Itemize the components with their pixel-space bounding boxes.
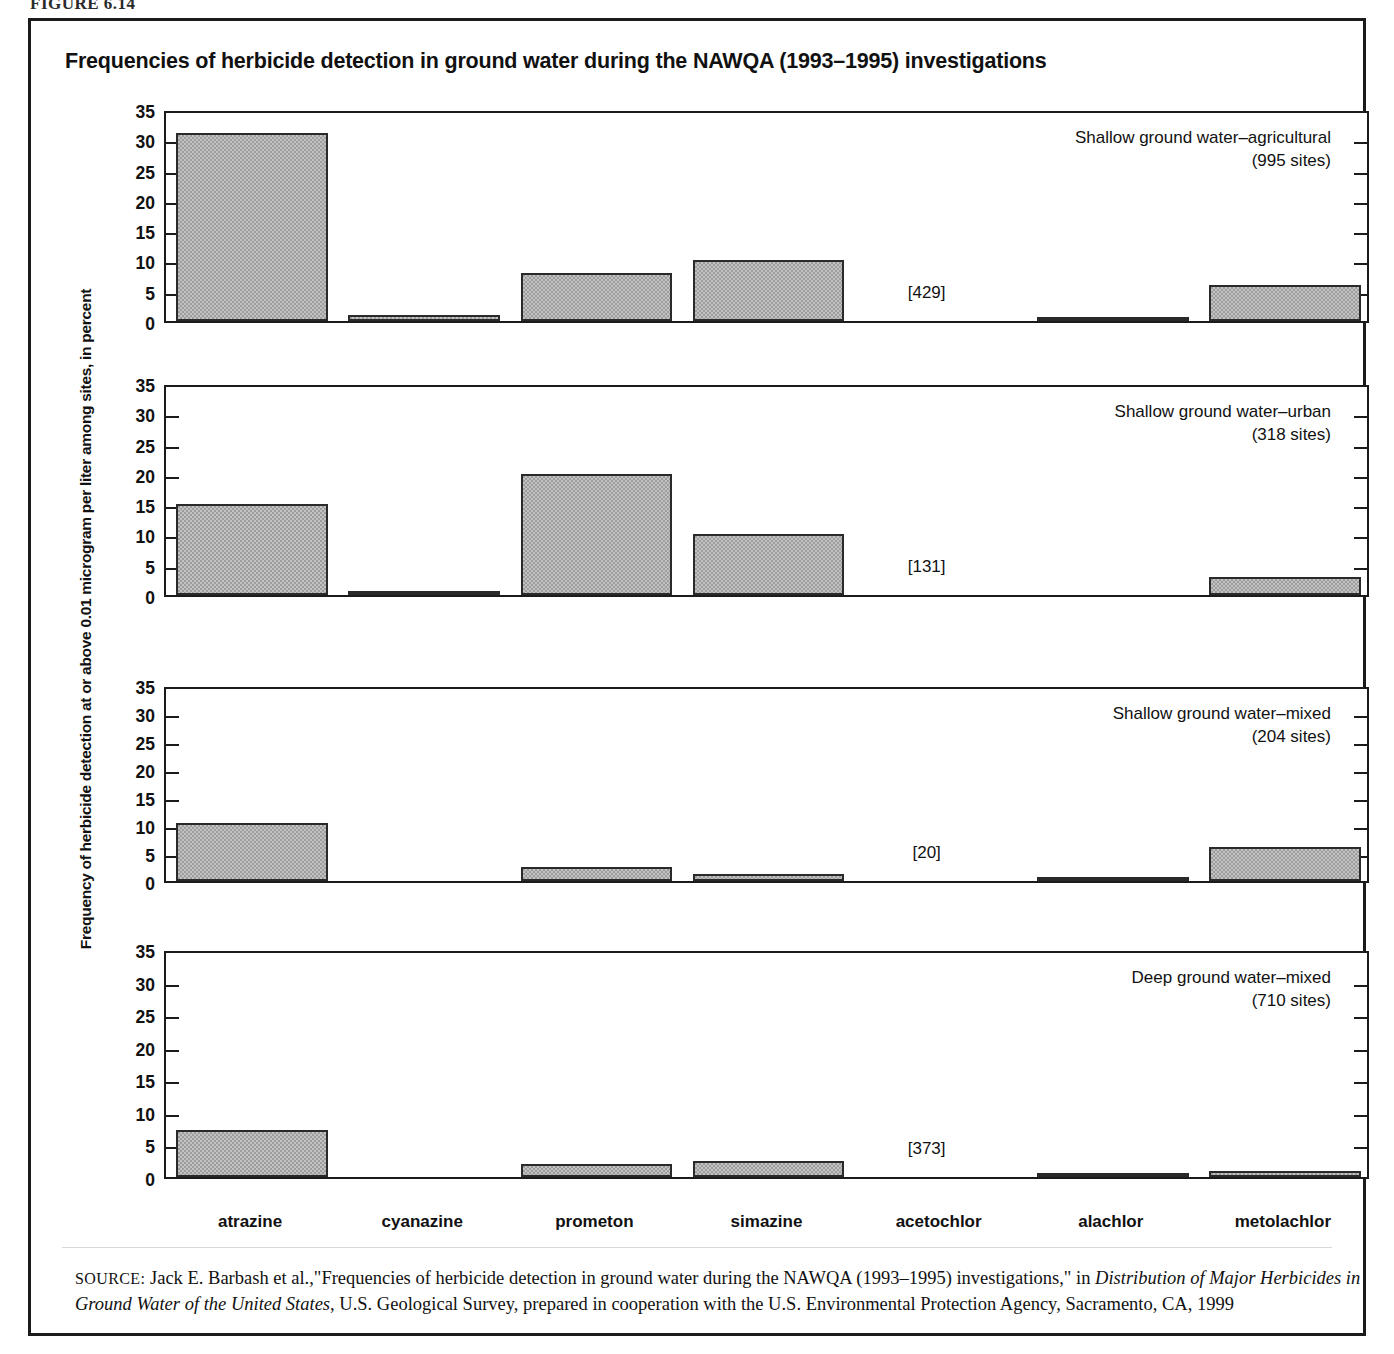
y-tick-mark-right-15 <box>1354 1082 1367 1084</box>
y-tick-label-30: 30 <box>136 977 155 995</box>
y-tick-mark-right-15 <box>1354 800 1367 802</box>
bar-prometon <box>521 273 672 321</box>
y-tick-mark-right-20 <box>1354 772 1367 774</box>
y-tick-label-25: 25 <box>136 1009 155 1027</box>
y-tick-mark-right-10 <box>1354 828 1367 830</box>
x-axis-label-acetochlor: acetochlor <box>896 1212 982 1232</box>
figure-frame: Frequencies of herbicide detection in gr… <box>28 18 1366 1336</box>
y-tick-mark-right-25 <box>1354 744 1367 746</box>
y-tick-mark-right-10 <box>1354 1115 1367 1117</box>
bar-atrazine <box>176 1130 327 1177</box>
panel-series-label: Deep ground water–mixed(710 sites) <box>1132 967 1331 1013</box>
y-tick-label-15: 15 <box>136 225 155 243</box>
y-tick-label-10: 10 <box>136 530 155 548</box>
plot-area: 05101520253035Deep ground water–mixed(71… <box>164 951 1369 1179</box>
chart-panel-1: 05101520253035Shallow ground water–agric… <box>164 111 1369 323</box>
panel-series-label-line1: Shallow ground water–agricultural <box>1075 127 1331 150</box>
bar-simazine <box>693 1161 844 1177</box>
x-axis-label-prometon: prometon <box>555 1212 633 1232</box>
y-tick-label-5: 5 <box>145 1140 155 1158</box>
y-tick-mark-15 <box>166 1082 179 1084</box>
bar-metolachlor <box>1209 285 1360 321</box>
panel-count-annotation: [20] <box>912 843 940 863</box>
y-tick-mark-right-5 <box>1354 1147 1367 1149</box>
y-tick-mark-right-15 <box>1354 507 1367 509</box>
y-tick-mark-right-30 <box>1354 416 1367 418</box>
x-axis-label-alachlor: alachlor <box>1078 1212 1143 1232</box>
y-tick-mark-right-10 <box>1354 263 1367 265</box>
y-tick-mark-10 <box>166 1115 179 1117</box>
y-tick-label-25: 25 <box>136 736 155 754</box>
y-tick-mark-30 <box>166 985 179 987</box>
bar-simazine <box>693 534 844 595</box>
chart-panel-2: 05101520253035Shallow ground water–urban… <box>164 385 1369 597</box>
panel-series-label: Shallow ground water–mixed(204 sites) <box>1113 703 1331 749</box>
y-tick-label-15: 15 <box>136 1075 155 1093</box>
y-tick-label-15: 15 <box>136 499 155 517</box>
x-axis-category-labels: atrazinecyanazineprometonsimazineacetoch… <box>164 1212 1369 1238</box>
y-tick-mark-right-25 <box>1354 173 1367 175</box>
y-tick-label-10: 10 <box>136 1107 155 1125</box>
bar-simazine <box>693 874 844 881</box>
panel-series-label: Shallow ground water–urban(318 sites) <box>1115 401 1331 447</box>
figure-number-label: FIGURE 6.14 <box>30 0 136 14</box>
panel-series-label-line2: (710 sites) <box>1132 990 1331 1013</box>
plot-area: 05101520253035Shallow ground water–agric… <box>164 111 1369 323</box>
y-tick-mark-25 <box>166 744 179 746</box>
bar-prometon <box>521 474 672 595</box>
y-tick-mark-30 <box>166 716 179 718</box>
y-tick-mark-15 <box>166 800 179 802</box>
panel-count-annotation: [429] <box>908 283 946 303</box>
source-text-part-1: Jack E. Barbash et al.,"Frequencies of h… <box>145 1268 1095 1288</box>
source-text-part-2: , U.S. Geological Survey, prepared in co… <box>330 1294 1234 1314</box>
y-tick-mark-right-20 <box>1354 203 1367 205</box>
y-tick-mark-25 <box>166 447 179 449</box>
bar-cyanazine <box>348 315 499 321</box>
y-tick-mark-right-20 <box>1354 1050 1367 1052</box>
y-tick-mark-right-5 <box>1354 568 1367 570</box>
y-tick-label-0: 0 <box>145 1172 155 1190</box>
y-axis-title-text: Frequency of herbicide detection at or a… <box>77 289 95 949</box>
y-tick-label-5: 5 <box>145 560 155 578</box>
panel-series-label-line1: Deep ground water–mixed <box>1132 967 1331 990</box>
x-axis-label-metolachlor: metolachlor <box>1235 1212 1331 1232</box>
bar-atrazine <box>176 504 327 595</box>
y-tick-mark-25 <box>166 1017 179 1019</box>
source-note: SOURCE: Jack E. Barbash et al.,"Frequenc… <box>75 1265 1385 1318</box>
y-tick-label-30: 30 <box>136 409 155 427</box>
y-tick-label-30: 30 <box>136 135 155 153</box>
y-tick-label-5: 5 <box>145 848 155 866</box>
panel-series-label-line2: (204 sites) <box>1113 726 1331 749</box>
y-tick-label-20: 20 <box>136 469 155 487</box>
y-tick-label-0: 0 <box>145 876 155 894</box>
y-tick-mark-20 <box>166 772 179 774</box>
y-tick-mark-right-25 <box>1354 447 1367 449</box>
y-tick-label-20: 20 <box>136 1042 155 1060</box>
y-tick-label-20: 20 <box>136 764 155 782</box>
panel-series-label-line1: Shallow ground water–urban <box>1115 401 1331 424</box>
panel-series-label-line1: Shallow ground water–mixed <box>1113 703 1331 726</box>
y-tick-label-10: 10 <box>136 256 155 274</box>
bar-alachlor <box>1037 317 1188 321</box>
y-tick-label-5: 5 <box>145 286 155 304</box>
x-axis-label-simazine: simazine <box>731 1212 803 1232</box>
y-tick-label-35: 35 <box>136 944 155 962</box>
y-tick-mark-right-30 <box>1354 985 1367 987</box>
y-tick-mark-20 <box>166 477 179 479</box>
panel-count-annotation: [373] <box>908 1139 946 1159</box>
y-tick-label-35: 35 <box>136 680 155 698</box>
panel-count-annotation: [131] <box>908 557 946 577</box>
bar-alachlor <box>1037 1173 1188 1177</box>
y-tick-mark-20 <box>166 1050 179 1052</box>
y-tick-label-35: 35 <box>136 378 155 396</box>
y-tick-mark-30 <box>166 416 179 418</box>
plot-area: 05101520253035Shallow ground water–mixed… <box>164 687 1369 883</box>
bar-metolachlor <box>1209 847 1360 881</box>
y-tick-mark-right-30 <box>1354 142 1367 144</box>
y-tick-label-35: 35 <box>136 104 155 122</box>
y-tick-label-25: 25 <box>136 165 155 183</box>
source-divider <box>62 1247 1332 1248</box>
y-tick-label-0: 0 <box>145 590 155 608</box>
y-tick-mark-right-25 <box>1354 1017 1367 1019</box>
bar-simazine <box>693 260 844 321</box>
